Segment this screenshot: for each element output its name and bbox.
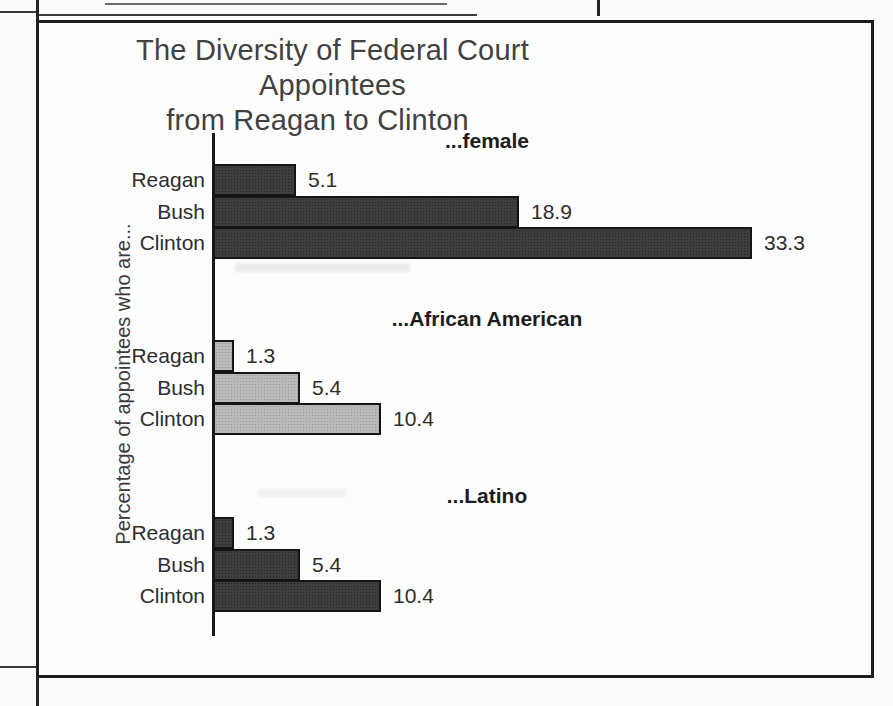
scan-hairline-left [0, 11, 36, 13]
bar-reagan-african-american [213, 340, 234, 372]
scan-tick-top [597, 0, 600, 16]
value-label-clinton-african-american: 10.4 [393, 407, 434, 431]
bar-bush-female [213, 196, 519, 228]
scan-ghost-smudge [258, 489, 346, 497]
value-label-bush-african-american: 5.4 [312, 376, 341, 400]
bar-reagan-female [213, 164, 296, 196]
group-heading-female: ...female [337, 130, 637, 152]
category-label-bush-female: Bush [55, 200, 205, 224]
bar-clinton-african-american [213, 403, 381, 435]
chart-title: The Diversity of Federal Court Appointee… [100, 33, 565, 138]
value-label-clinton-female: 33.3 [764, 231, 805, 255]
value-label-clinton-latino: 10.4 [393, 584, 434, 608]
value-label-bush-female: 18.9 [531, 200, 572, 224]
bar-clinton-female [213, 227, 752, 259]
bar-bush-latino [213, 549, 300, 581]
scan-hairline-top [105, 3, 447, 5]
bar-clinton-latino [213, 580, 381, 612]
category-label-reagan-latino: Reagan [55, 521, 205, 545]
chart-title-line1: The Diversity of Federal Court Appointee… [100, 33, 565, 103]
category-label-clinton-african-american: Clinton [55, 407, 205, 431]
value-label-reagan-female: 5.1 [308, 168, 337, 192]
group-heading-latino: ...Latino [337, 485, 637, 507]
category-label-reagan-female: Reagan [55, 168, 205, 192]
value-label-reagan-latino: 1.3 [246, 521, 275, 545]
scan-hairline-upper [39, 14, 477, 16]
group-heading-african-american: ...African American [337, 308, 637, 330]
bar-reagan-latino [213, 517, 234, 549]
bar-bush-african-american [213, 372, 300, 404]
scan-ghost-smudge [235, 263, 410, 272]
value-label-bush-latino: 5.4 [312, 553, 341, 577]
scanned-page: The Diversity of Federal Court Appointee… [0, 0, 893, 706]
value-label-reagan-african-american: 1.3 [246, 344, 275, 368]
category-label-bush-latino: Bush [55, 553, 205, 577]
category-label-clinton-latino: Clinton [55, 584, 205, 608]
category-label-clinton-female: Clinton [55, 231, 205, 255]
category-label-bush-african-american: Bush [55, 376, 205, 400]
category-label-reagan-african-american: Reagan [55, 344, 205, 368]
